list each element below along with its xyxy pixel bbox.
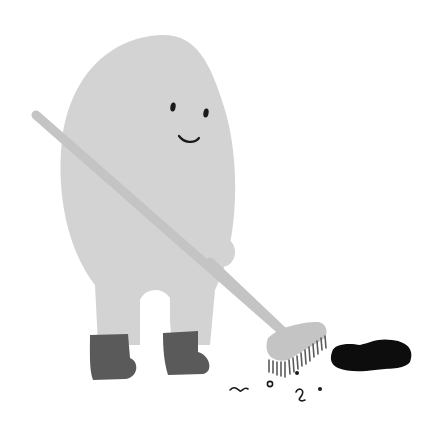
dot-debris-2 [318,387,322,391]
dot-debris-1 [295,371,299,375]
